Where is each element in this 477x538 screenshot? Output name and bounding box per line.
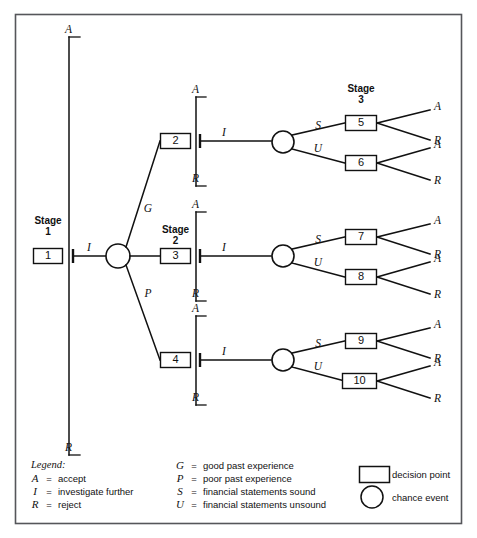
- node-label-6: 6: [358, 156, 364, 168]
- node-label-3: 3: [172, 249, 178, 261]
- node7-terminal-accept: A: [433, 214, 442, 226]
- node10-terminal-accept: A: [433, 356, 442, 368]
- node10-reject-line: [377, 381, 430, 398]
- legend-key-p: P: [176, 472, 184, 484]
- legend-decision-point-label: decision point: [392, 469, 450, 480]
- node6-reject-line: [377, 163, 430, 180]
- legend-key-a: A: [31, 472, 39, 484]
- stage-2-label-line1: Stage: [162, 224, 190, 235]
- legend-def-p: poor past experience: [203, 473, 292, 484]
- node-label-4: 4: [172, 353, 178, 365]
- node2-terminal-reject: R: [191, 172, 199, 184]
- node5-reject-line: [377, 123, 430, 140]
- node3-terminal-accept: A: [191, 198, 200, 210]
- legend-key-s: S: [177, 485, 183, 497]
- legend-decision-point-icon: [360, 467, 390, 483]
- node4-terminal-accept: A: [191, 302, 200, 314]
- legend-equals-i: =: [46, 486, 52, 497]
- legend-def-u: financial statements unsound: [203, 499, 326, 510]
- stage-2-label-line2: 2: [173, 235, 179, 246]
- legend-equals-s: =: [191, 486, 197, 497]
- node3-branch-investigate: I: [221, 241, 227, 253]
- stage-3-label-line1: Stage: [347, 83, 375, 94]
- stage-1-group: 1 Stage 1 A I R: [34, 23, 107, 455]
- node3-terminal-reject: R: [191, 287, 199, 299]
- legend-key-g: G: [176, 459, 184, 471]
- legend-title: Legend:: [30, 459, 65, 470]
- stage-3-group-3: S U 9 10 A R A R: [272, 318, 442, 404]
- legend-chance-event-label: chance event: [392, 492, 449, 503]
- node7-accept-line: [377, 224, 430, 237]
- g3-label-sound: S: [315, 337, 321, 349]
- node-label-7: 7: [358, 230, 364, 242]
- chance-branch-poor: [126, 265, 160, 360]
- legend-chance-event-icon: [361, 486, 383, 508]
- node9-accept-line: [377, 328, 430, 341]
- chance-node-g1[interactable]: [272, 131, 294, 153]
- stage1-terminal-reject: R: [64, 441, 72, 453]
- node8-accept-line: [377, 262, 430, 277]
- legend-key-i: I: [32, 485, 38, 497]
- node2-branch-investigate: I: [221, 126, 227, 138]
- node6-terminal-accept: A: [433, 138, 442, 150]
- decision-tree-diagram: 1 Stage 1 A I R G P 2 A R: [0, 0, 477, 538]
- node10-accept-line: [377, 366, 430, 381]
- legend-key-u: U: [176, 498, 185, 510]
- node2-terminal-accept: A: [191, 83, 200, 95]
- node10-terminal-reject: R: [433, 392, 441, 404]
- node8-terminal-accept: A: [433, 252, 442, 264]
- node-label-8: 8: [358, 270, 364, 282]
- legend-equals-g: =: [191, 460, 197, 471]
- node-label-10: 10: [353, 374, 365, 386]
- stage-3-group-1: Stage 3 S U 5 6 A R A R: [272, 83, 442, 186]
- chance-branch-label-good: G: [144, 202, 153, 214]
- legend-equals-a: =: [46, 473, 52, 484]
- node-label-1: 1: [45, 249, 51, 261]
- node4-terminal-reject: R: [191, 391, 199, 403]
- node4-branch-investigate: I: [221, 345, 227, 357]
- node9-terminal-accept: A: [433, 318, 442, 330]
- node8-reject-line: [377, 277, 430, 294]
- node5-accept-line: [377, 110, 430, 123]
- chance-branch-label-poor: P: [143, 287, 151, 299]
- node6-accept-line: [377, 148, 430, 163]
- legend-def-s: financial statements sound: [203, 486, 315, 497]
- chance-branches-group: G P: [126, 141, 160, 360]
- chance-branch-good: [126, 141, 160, 247]
- stage-3-group-2: S U 7 8 A R A R: [272, 214, 442, 300]
- node8-terminal-reject: R: [433, 288, 441, 300]
- chance-node-g2[interactable]: [272, 245, 294, 267]
- node6-terminal-reject: R: [433, 174, 441, 186]
- stage-2-node-2-group: 2 A R I: [161, 83, 272, 186]
- legend-def-r: reject: [58, 499, 82, 510]
- diagram-page: 1 Stage 1 A I R G P 2 A R: [0, 0, 477, 538]
- legend-equals-p: =: [191, 473, 197, 484]
- stage-1-label-line2: 1: [45, 226, 51, 237]
- legend-def-a: accept: [58, 473, 86, 484]
- stage1-terminal-accept: A: [64, 23, 73, 35]
- node7-reject-line: [377, 237, 430, 254]
- g1-label-sound: S: [315, 119, 321, 131]
- g2-label-unsound: U: [314, 256, 323, 268]
- legend-group: Legend: A = accept I = investigate furth…: [30, 459, 450, 510]
- legend-key-r: R: [31, 498, 39, 510]
- g3-label-unsound: U: [314, 360, 323, 372]
- g1-label-unsound: U: [314, 142, 323, 154]
- g2-label-sound: S: [315, 233, 321, 245]
- legend-equals-r: =: [46, 499, 52, 510]
- stage-2-node-3-group: Stage 2 3 A R I: [161, 198, 272, 301]
- node9-reject-line: [377, 341, 430, 358]
- node-label-5: 5: [358, 116, 364, 128]
- legend-def-i: investigate further: [58, 486, 134, 497]
- node-label-9: 9: [358, 334, 364, 346]
- chance-node-g3[interactable]: [272, 349, 294, 371]
- legend-def-g: good past experience: [203, 460, 294, 471]
- stage-2-node-4-group: 4 A R I: [161, 302, 272, 405]
- stage-1-label-line1: Stage: [34, 215, 62, 226]
- node-label-2: 2: [172, 134, 178, 146]
- legend-equals-u: =: [191, 499, 197, 510]
- diagram-border: [16, 15, 462, 524]
- node5-terminal-accept: A: [433, 100, 442, 112]
- stage-3-label-line2: 3: [358, 94, 364, 105]
- stage1-branch-investigate: I: [86, 241, 92, 253]
